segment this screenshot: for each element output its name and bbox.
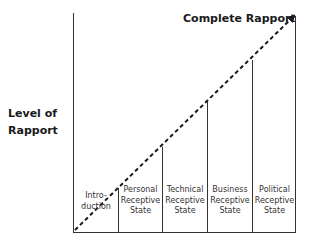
column-label-line: State [119,206,162,217]
complete-rapport-label: Complete Rapport [183,12,296,25]
column-label-political: Political Receptive State [253,185,296,217]
column-label-line: Receptive [253,196,296,207]
column-label-line: Technical [163,185,207,196]
column-label-line: Personal [119,185,162,196]
column-label-personal: Personal Receptive State [119,185,162,217]
y-axis-label-line2: Rapport [8,122,58,139]
column-label-line: Business [208,185,252,196]
column-label-line: Intro- [74,191,118,202]
column-label-line: duction [74,202,118,213]
column-label-line: Political [253,185,296,196]
column-label-technical: Technical Receptive State [163,185,207,217]
column-label-line: Receptive [163,196,207,207]
y-axis-label: Level of Rapport [8,105,58,139]
column-label-line: State [208,206,252,217]
column-label-line: Receptive [208,196,252,207]
column-label-line: Receptive [119,196,162,207]
column-label-line: State [253,206,296,217]
column-label-business: Business Receptive State [208,185,252,217]
column-label-line: State [163,206,207,217]
column-label-introduction: Intro- duction [74,191,118,212]
y-axis-label-line1: Level of [8,105,58,122]
